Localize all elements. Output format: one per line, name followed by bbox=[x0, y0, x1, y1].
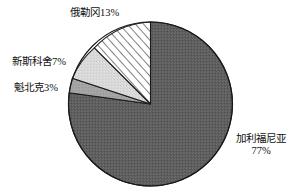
nova-scotia-slice-label: 新斯科舍7% bbox=[12, 56, 66, 68]
pie-chart: 俄勒冈13% 新斯科舍7% 魁北克3% 加利福尼亚 77% bbox=[0, 0, 296, 192]
california-label-name: 加利福尼亚 bbox=[236, 133, 286, 144]
california-slice-label: 加利福尼亚 77% bbox=[232, 133, 290, 157]
pie-chart-graphic bbox=[0, 0, 296, 192]
oregon-slice-label: 俄勒冈13% bbox=[70, 7, 119, 19]
california-label-value: 77% bbox=[232, 145, 290, 157]
quebec-slice-label: 魁北克3% bbox=[14, 82, 58, 94]
